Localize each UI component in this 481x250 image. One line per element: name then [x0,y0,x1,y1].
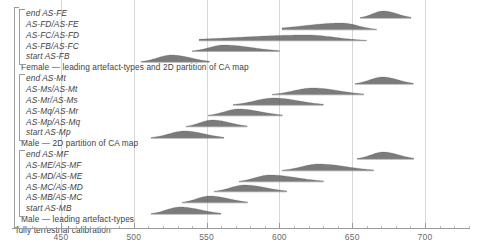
axis-tick-minor [119,226,120,228]
row-label: AS-Ms/AS-Mt [26,84,77,94]
row-label: AS-Mr/AS-Ms [26,95,78,105]
axis-tick-minor [250,226,251,228]
axis-tick-minor [46,226,47,228]
density-curve [355,77,413,84]
density-curve [360,11,411,18]
density-curve [282,23,377,30]
density-curve [151,131,224,138]
density-curve [272,88,364,95]
axis-tick-label: 650 [345,232,360,242]
axis-tick-label: 550 [199,232,214,242]
row-label: AS-ME/AS-MF [26,160,82,170]
group-label: Male — leading artefact-types [21,214,134,224]
axis-tick-minor [294,226,295,228]
density-curve [239,175,323,182]
density-curve [151,207,221,214]
density-curve [192,45,279,52]
row-label: AS-FD/AS-FE [26,19,79,29]
axis-tick-minor [338,226,339,228]
axis-tick-minor [323,226,324,228]
axis-tick-minor [454,226,455,228]
axis-tick-minor [90,226,91,228]
axis-tick-minor [367,226,368,228]
gridline-500 [134,0,135,228]
axis-tick-minor [76,226,77,228]
row-label: end AS-Mt [26,73,66,83]
axis-tick-label: 600 [272,232,287,242]
row-label: start AS-FB [26,51,70,61]
density-curve [208,109,282,116]
row-label: AS-MD/AS-ME [26,171,82,181]
row-label: end AS-FE [26,8,67,18]
group-label: Male — 2D partition of CA map [21,138,138,148]
row-label: AS-FC/AS-FD [26,30,79,40]
row-label: AS-Mp/AS-Mq [26,117,80,127]
row-label: start AS-MB [26,203,72,213]
axis-tick-minor [381,226,382,228]
row-label: AS-FB/AS-FC [26,41,79,51]
axis-tick-minor [410,226,411,228]
overall-bracket [14,7,15,228]
axis-tick-minor [440,226,441,228]
row-label: AS-Mq/AS-Mr [26,106,78,116]
group-bracket [19,150,20,218]
axis-tick-minor [309,226,310,228]
density-curve [141,55,209,62]
axis-tick-label: 450 [54,232,69,242]
row-label: AS-MB/AS-MC [26,192,82,202]
row-label: AS-MC/AS-MD [26,182,83,192]
axis-tick-minor [105,226,106,228]
axis-tick-major [207,223,208,228]
row-label: start AS-Mp [26,127,71,137]
phase-density-plot: end AS-FEAS-FD/AS-FEAS-FC/AS-FDAS-FB/AS-… [0,0,481,250]
gridline-700 [425,0,426,228]
density-curve [233,98,323,105]
axis-tick-label: 500 [126,232,141,242]
axis-tick-minor [148,226,149,228]
axis-tick-minor [469,226,470,228]
density-curve [182,196,248,203]
density-curve [214,185,287,192]
density-curve [282,164,374,171]
axis-tick-minor [178,226,179,228]
axis-tick-major [61,223,62,228]
axis-tick-minor [396,226,397,228]
group-bracket [19,9,20,66]
axis-tick-minor [265,226,266,228]
axis-tick-minor [236,226,237,228]
axis-tick-label: 700 [418,232,433,242]
row-label: end AS-MF [26,149,69,159]
density-curve [357,152,414,159]
group-bracket [19,74,20,142]
axis-tick-minor [221,226,222,228]
axis-tick-major [134,223,135,228]
axis-tick-major [279,223,280,228]
axis-tick-minor [192,226,193,228]
axis-tick-minor [32,226,33,228]
x-axis-line [12,228,470,229]
axis-tick-major [352,223,353,228]
axis-tick-major [425,223,426,228]
density-curve [186,120,247,127]
axis-tick-minor [163,226,164,228]
group-label: Female — leading artefact-types and 2D p… [21,62,249,72]
density-curve [199,35,366,41]
